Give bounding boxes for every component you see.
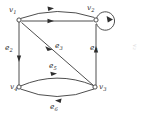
vertex-v3-dot <box>93 85 97 89</box>
vertex-label-v1: v1 <box>9 6 17 16</box>
edge-e1-path <box>21 11 95 18</box>
edge-label-e2: e2 <box>5 44 13 54</box>
graph-figure: v1 v2 v3 v4 e2 e3 e4 e5 e6 v₂ <box>0 0 148 121</box>
edge-e5-arrowhead <box>50 72 57 76</box>
vertex-label-v3: v3 <box>99 83 107 93</box>
edge-e6-path <box>21 89 95 97</box>
vertex-v1-dot <box>17 18 21 22</box>
edge-label-e5: e5 <box>49 62 57 72</box>
graph-canvas <box>0 0 148 121</box>
edge-e5-path <box>21 78 94 86</box>
edge-e3-path <box>22 23 94 86</box>
vertex-v2-dot <box>94 18 98 22</box>
edge-label-e4: e4 <box>90 44 98 54</box>
margin-note: v₂ <box>131 44 138 50</box>
edge-e1b-arrowhead <box>48 19 55 23</box>
edge-self-loop-arrowhead <box>107 16 113 23</box>
edge-label-e3: e3 <box>55 42 63 52</box>
vertex-label-v4: v4 <box>10 83 18 93</box>
edge-label-e6: e6 <box>50 103 58 113</box>
edge-e2-arrowhead <box>17 56 21 63</box>
edge-e1-arrowhead <box>48 7 55 11</box>
edge-self-loop-path <box>97 12 115 30</box>
vertex-label-v2: v2 <box>87 4 95 14</box>
